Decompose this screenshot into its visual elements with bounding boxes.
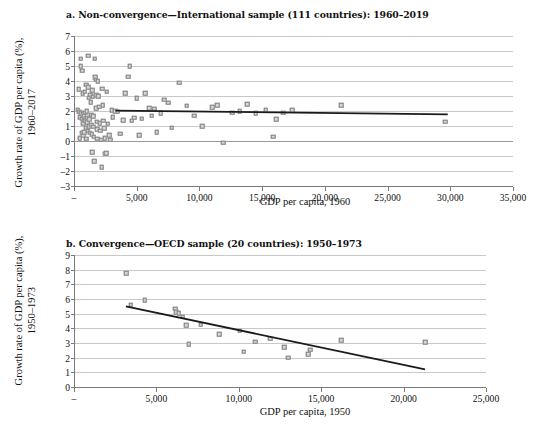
scatter-point [217, 332, 222, 337]
scatter-point [158, 111, 163, 116]
x-axis-tick-mark [513, 187, 514, 191]
scatter-point [210, 105, 215, 110]
gridline-y [74, 314, 486, 315]
scatter-point [290, 108, 295, 113]
gridline-y [74, 171, 513, 172]
scatter-point [129, 303, 134, 308]
panel-b-y-axis-line [74, 255, 75, 387]
gridline-y [74, 270, 486, 271]
panel-b-x-axis-label: GDP per capita, 1950 [28, 406, 554, 417]
y-axis-tick-mark [71, 126, 75, 127]
scatter-point [177, 80, 182, 85]
panel-a-x-axis-label: GDP per capita, 1960 [28, 196, 554, 207]
gridline-y [74, 51, 513, 52]
scatter-point [104, 151, 109, 156]
scatter-point [253, 339, 258, 344]
gridline-y [74, 96, 513, 97]
scatter-point [111, 115, 116, 120]
y-axis-tick-mark [71, 255, 75, 256]
gridline-y [74, 358, 486, 359]
x-axis-tick-label: 5,000 [146, 393, 168, 404]
y-axis-tick-mark [71, 270, 75, 271]
y-axis-tick-mark [71, 328, 75, 329]
scatter-point [180, 314, 185, 319]
y-axis-tick-label: 5 [65, 61, 70, 72]
scatter-point [282, 345, 287, 350]
scatter-point [134, 96, 139, 101]
y-axis-tick-mark [71, 284, 75, 285]
scatter-point [116, 109, 121, 114]
scatter-point [80, 68, 85, 73]
scatter-point [104, 89, 109, 94]
scatter-point [166, 100, 171, 105]
gridline-y [74, 156, 513, 157]
scatter-point [92, 159, 97, 164]
scatter-point [102, 126, 107, 131]
panel-a-y-axis-label-line1: Growth rate of GDP per capita (%), [13, 38, 24, 188]
scatter-point [128, 64, 133, 69]
scatter-point [254, 111, 259, 116]
y-axis-tick-label: 2 [65, 106, 70, 117]
scatter-point [143, 91, 148, 96]
scatter-point [123, 91, 128, 96]
scatter-point [268, 336, 273, 341]
scatter-point [86, 53, 91, 58]
scatter-point [192, 113, 197, 118]
scatter-point [137, 133, 142, 138]
chart-panel-a: a. Non-convergence—International sample … [0, 0, 554, 214]
x-axis-tick-mark [262, 187, 263, 191]
scatter-point [443, 119, 448, 124]
y-axis-tick-label: 0 [65, 136, 70, 147]
gridline-y [74, 36, 513, 37]
scatter-point [118, 131, 123, 136]
scatter-point [96, 94, 101, 99]
y-axis-tick-mark [71, 66, 75, 67]
scatter-point [274, 117, 279, 122]
scatter-point [90, 150, 95, 155]
scatter-point [339, 103, 344, 108]
panel-b-plot-area: 0123456789–5,00010,00015,00020,00025,000 [74, 255, 486, 387]
y-axis-tick-mark [71, 141, 75, 142]
scatter-point [215, 103, 220, 108]
y-axis-tick-mark [71, 36, 75, 37]
y-axis-tick-mark [71, 96, 75, 97]
scatter-point [132, 115, 137, 120]
x-axis-tick-mark [74, 388, 75, 392]
y-axis-tick-mark [71, 111, 75, 112]
y-axis-tick-mark [71, 372, 75, 373]
scatter-point [101, 103, 106, 108]
y-axis-tick-mark [71, 51, 75, 52]
scatter-point [143, 298, 148, 303]
scatter-point [339, 338, 344, 343]
scatter-point [245, 102, 250, 107]
x-axis-line [74, 186, 513, 187]
gridline-y [74, 141, 513, 142]
panel-b-y-axis-label-line1: Growth rate of GDP per capita (%), [13, 236, 24, 386]
x-axis-tick-label: – [72, 393, 77, 404]
scatter-point [306, 352, 311, 357]
y-axis-tick-label: 7 [65, 279, 70, 290]
scatter-point [91, 114, 96, 119]
x-axis-tick-mark [156, 388, 157, 392]
scatter-point [121, 118, 126, 123]
scatter-point [96, 79, 101, 84]
scatter-point [264, 108, 269, 113]
x-axis-tick-label: 10,000 [226, 393, 252, 404]
y-axis-tick-label: 6 [65, 294, 70, 305]
gridline-y [74, 66, 513, 67]
panel-a-y-axis-label: Growth rate of GDP per capita (%), 1960–… [12, 25, 38, 200]
scatter-point [221, 140, 226, 145]
x-axis-tick-label: 25,000 [473, 393, 499, 404]
x-axis-tick-mark [388, 187, 389, 191]
y-axis-tick-label: –2 [60, 166, 70, 177]
scatter-point [186, 342, 191, 347]
scatter-point [99, 165, 104, 170]
scatter-point [92, 56, 97, 61]
y-axis-tick-label: 5 [65, 308, 70, 319]
x-axis-tick-mark [404, 388, 405, 392]
scatter-point [286, 355, 291, 360]
scatter-point [423, 340, 428, 345]
panel-b-y-axis-label: Growth rate of GDP per capita (%), 1950–… [12, 233, 38, 388]
trend-line [74, 255, 486, 387]
panel-a-y-axis-label-line2: 1960–2017 [25, 25, 38, 200]
